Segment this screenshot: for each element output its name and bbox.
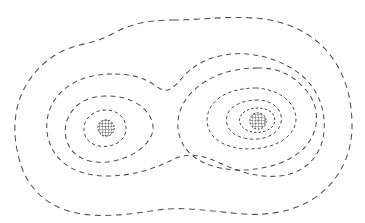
contour-plot-svg [0,0,365,223]
contour-plot-canvas [0,0,365,223]
plot-background [0,0,365,223]
